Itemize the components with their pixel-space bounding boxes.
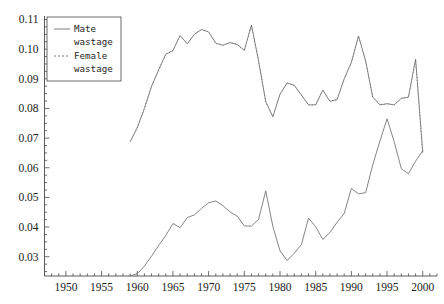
series-line-male-wastage	[130, 119, 423, 276]
x-tick-label: 1995	[376, 281, 399, 293]
x-axis	[45, 271, 438, 276]
legend-label-female-line2: wastage	[74, 63, 113, 74]
x-tick-label: 2000	[411, 281, 434, 293]
y-tick-label: 0.10	[18, 43, 38, 55]
x-tick-label: 1950	[54, 281, 77, 293]
line-chart-plot: 0.030.040.050.060.070.080.090.100.11 195…	[0, 0, 444, 304]
y-tick-label: 0.03	[18, 251, 38, 263]
legend-label-female-line1: Female	[74, 50, 107, 61]
y-tick-label: 0.09	[18, 73, 38, 85]
y-tick-label: 0.06	[18, 162, 38, 174]
x-tick-label: 1955	[90, 281, 113, 293]
x-tick-label: 1960	[126, 281, 149, 293]
y-tick-label: 0.11	[19, 13, 39, 25]
data-series-group	[130, 25, 423, 276]
legend-label-male-line2: wastage	[74, 36, 113, 47]
y-tick-label: 0.08	[18, 102, 38, 114]
y-tick-label: 0.05	[18, 191, 38, 203]
y-axis-tick-labels: 0.030.040.050.060.070.080.090.100.11	[18, 13, 38, 262]
x-axis-tick-labels: 1950195519601965197019751980198519901995…	[54, 281, 434, 293]
y-tick-label: 0.07	[18, 132, 38, 144]
chart-container: 0.030.040.050.060.070.080.090.100.11 195…	[0, 0, 444, 304]
x-tick-label: 1970	[197, 281, 220, 293]
x-tick-label: 1980	[269, 281, 292, 293]
y-tick-label: 0.04	[18, 221, 38, 233]
x-tick-label: 1990	[340, 281, 363, 293]
x-tick-label: 1975	[233, 281, 256, 293]
series-line-female-wastage	[130, 25, 423, 152]
chart-legend: Mate wastage Female wastage	[47, 17, 121, 81]
x-tick-label: 1965	[161, 281, 184, 293]
x-axis-ticks	[45, 271, 438, 276]
legend-label-male-line1: Mate	[74, 23, 96, 34]
x-tick-label: 1985	[304, 281, 327, 293]
